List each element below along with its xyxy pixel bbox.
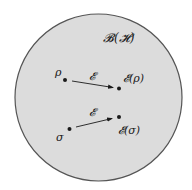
state-space-disk — [15, 14, 182, 181]
state-space-label: 𝓑(𝓗) — [103, 31, 135, 45]
channel-rho-point — [117, 87, 121, 91]
sigma-point — [68, 127, 72, 131]
rho-label: ρ — [54, 66, 62, 79]
channel-rho-label: 𝓔(ρ) — [123, 72, 144, 85]
sigma-label: σ — [56, 131, 64, 144]
channel-sigma-label: 𝓔(σ) — [118, 124, 140, 137]
quantum-channel-diagram: 𝓑(𝓗) ρ 𝓔 𝓔(ρ) σ 𝓔 𝓔(σ) — [0, 0, 192, 190]
channel-sigma-point — [117, 115, 121, 119]
rho-point — [63, 78, 67, 82]
